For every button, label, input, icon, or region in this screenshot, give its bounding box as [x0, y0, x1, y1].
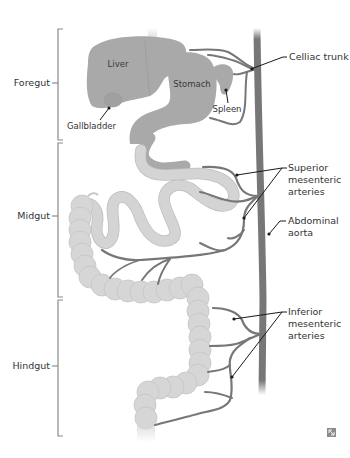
abdominal-aorta-label-line1: Abdominal	[288, 215, 339, 226]
celiac-trunk-label: Celliac trunk	[289, 51, 349, 62]
foregut-label: Foregut	[14, 77, 51, 88]
midgut-bracket	[58, 143, 63, 297]
hindgut-bracket	[58, 300, 63, 436]
gallbladder	[104, 93, 122, 107]
sma-label-line2: mesenteric	[288, 174, 341, 185]
region-brackets	[52, 29, 63, 436]
abdominal-aorta-label-line2: aorta	[288, 227, 313, 238]
colon	[69, 195, 211, 442]
sma-label-line1: Superior	[288, 162, 328, 173]
expand-icon[interactable]	[327, 428, 336, 437]
ima-label-line1: Inferior	[288, 306, 322, 317]
ima-label-line3: arteries	[288, 330, 325, 341]
spleen-label: Spleen	[213, 104, 242, 114]
gallbladder-label: Gallbladder	[67, 121, 117, 131]
liver-label: Liver	[108, 59, 129, 69]
foregut-bracket	[58, 29, 63, 140]
stomach-label: Stomach	[173, 79, 210, 89]
duodenum	[143, 138, 185, 168]
gut-artery-diagram: Foregut Midgut Hindgut Liver Stomach Spl…	[0, 0, 350, 458]
sma-label-line3: arteries	[288, 186, 325, 197]
midgut-label: Midgut	[17, 210, 50, 221]
ima-label-line2: mesenteric	[288, 318, 341, 329]
hindgut-label: Hindgut	[12, 360, 50, 371]
